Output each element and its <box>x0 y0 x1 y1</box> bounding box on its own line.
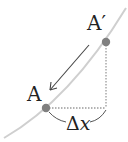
point-a <box>42 104 50 112</box>
label-a-prime: A′ <box>87 13 106 33</box>
point-a-prime <box>102 38 110 46</box>
label-a: A <box>27 84 41 104</box>
delta-variable: x <box>80 112 91 134</box>
label-delta-x: Δx <box>66 114 90 133</box>
diagram-canvas: A A′ Δx <box>0 0 128 142</box>
diagram-graphics <box>0 0 128 142</box>
delta-symbol: Δ <box>66 112 80 134</box>
